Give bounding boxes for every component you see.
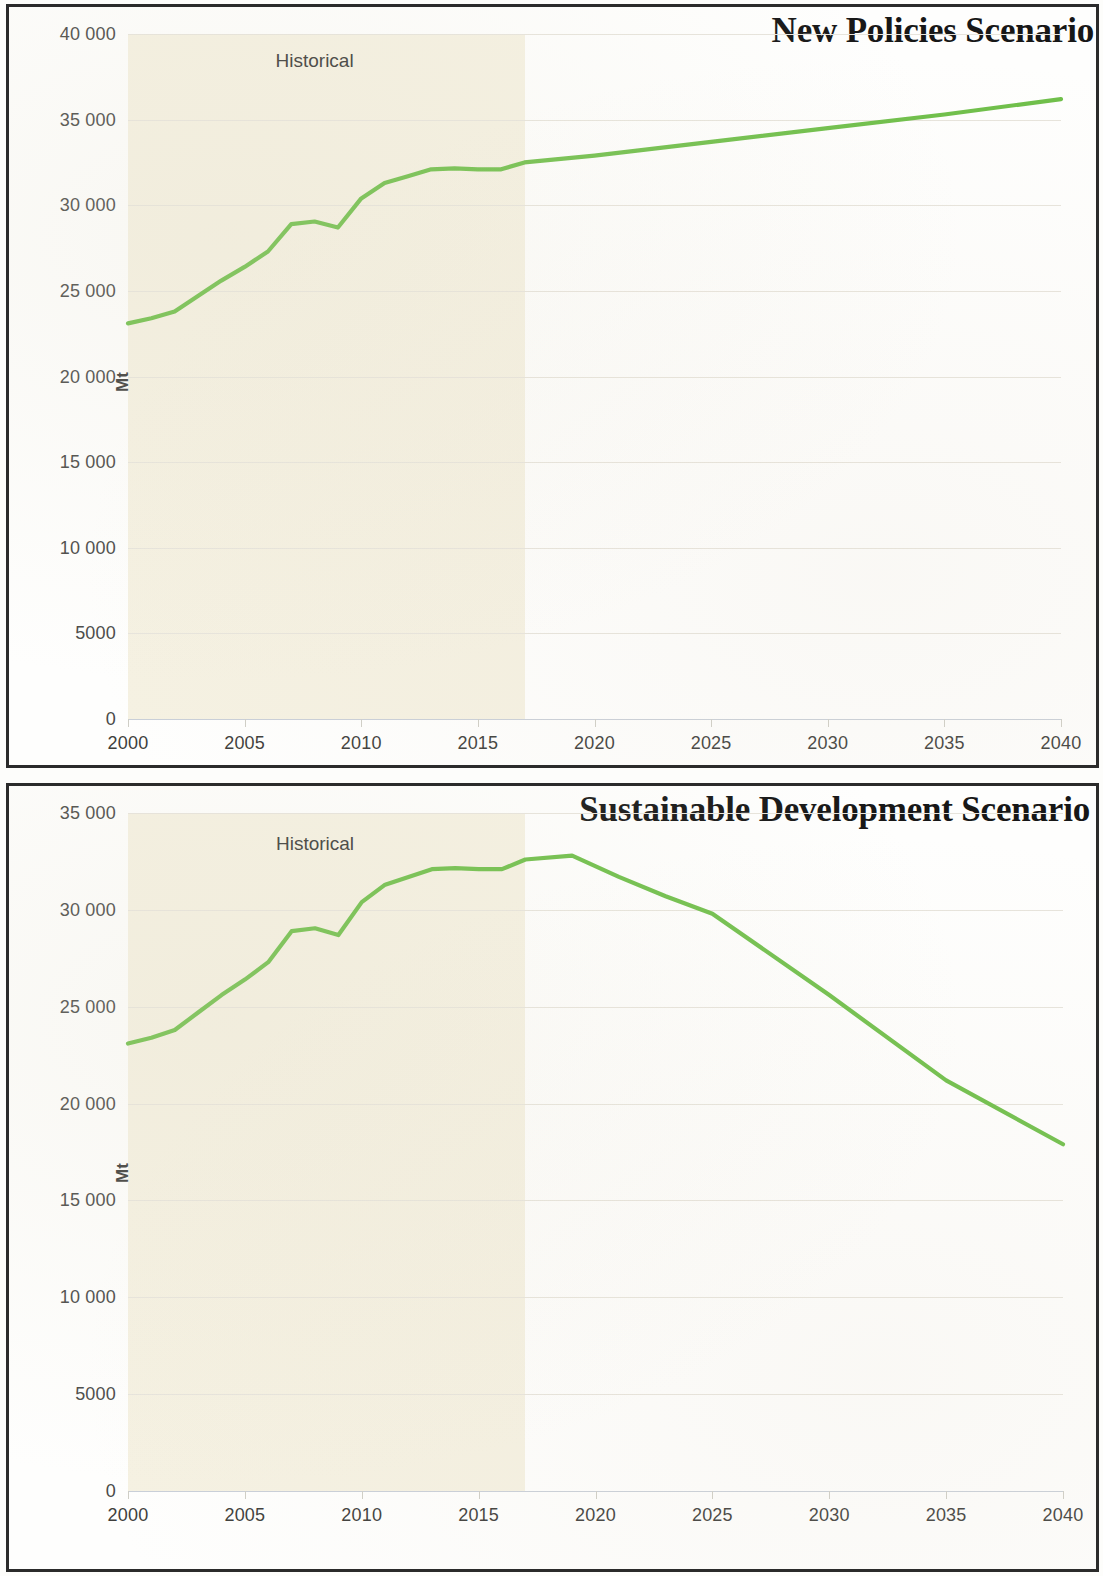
x-axis-tick-label: 2015 (458, 1505, 499, 1526)
y-axis-tick-label: 15 000 (60, 1190, 116, 1211)
x-axis-tick-label: 2025 (692, 1505, 733, 1526)
series-layer (128, 813, 1063, 1491)
y-axis-tick-label: 35 000 (60, 803, 116, 824)
y-axis-tick-label: 35 000 (60, 109, 116, 130)
x-axis-tick-label: 2000 (108, 733, 149, 754)
figure-page: New Policies Scenario 0500010 00015 0002… (0, 0, 1103, 1576)
x-axis-tick-mark (245, 719, 246, 727)
x-axis-tick-mark (1063, 1491, 1064, 1499)
y-axis-tick-label: 25 000 (60, 280, 116, 301)
x-axis-tick-mark (1061, 719, 1062, 727)
x-axis-tick-label: 2020 (574, 733, 615, 754)
x-axis-tick-label: 2030 (807, 733, 848, 754)
y-axis-tick-label: 0 (106, 1481, 116, 1502)
x-axis-tick-mark (478, 719, 479, 727)
x-axis-tick-label: 2010 (341, 733, 382, 754)
x-axis-tick-mark (128, 1491, 129, 1499)
x-axis-tick-mark (479, 1491, 480, 1499)
x-axis-tick-mark (362, 1491, 363, 1499)
x-axis-tick-mark (361, 719, 362, 727)
x-axis-tick-label: 2020 (575, 1505, 616, 1526)
x-axis-tick-mark (596, 1491, 597, 1499)
x-axis-tick-mark (828, 719, 829, 727)
y-axis-tick-label: 30 000 (60, 899, 116, 920)
x-axis-tick-label: 2025 (691, 733, 732, 754)
x-axis-tick-mark (712, 1491, 713, 1499)
x-axis-tick-label: 2040 (1041, 733, 1082, 754)
plot-area-sustainable-development: 0500010 00015 00020 00025 00030 00035 00… (128, 813, 1063, 1491)
x-axis-tick-label: 2030 (809, 1505, 850, 1526)
x-axis-tick-label: 2010 (341, 1505, 382, 1526)
x-axis-tick-label: 2035 (926, 1505, 967, 1526)
x-axis-tick-mark (128, 719, 129, 727)
x-axis-tick-mark (944, 719, 945, 727)
x-axis-tick-label: 2035 (924, 733, 965, 754)
y-axis-tick-label: 0 (106, 709, 116, 730)
x-axis-tick-mark (946, 1491, 947, 1499)
y-axis-tick-label: 20 000 (60, 1093, 116, 1114)
x-axis-tick-label: 2040 (1043, 1505, 1084, 1526)
x-axis-tick-label: 2000 (108, 1505, 149, 1526)
x-axis-tick-label: 2015 (457, 733, 498, 754)
y-axis-tick-label: 10 000 (60, 537, 116, 558)
chart-new-policies-scenario: New Policies Scenario 0500010 00015 0002… (6, 4, 1099, 768)
y-axis-tick-label: 30 000 (60, 195, 116, 216)
series-layer (128, 34, 1061, 719)
chart-sustainable-development-scenario: Sustainable Development Scenario 0500010… (6, 783, 1099, 1572)
data-series-line (128, 99, 1061, 323)
x-axis-tick-label: 2005 (224, 733, 265, 754)
x-axis-tick-mark (595, 719, 596, 727)
y-axis-tick-label: 25 000 (60, 996, 116, 1017)
data-series-line (128, 856, 1063, 1145)
y-axis-tick-label: 5000 (75, 1384, 116, 1405)
y-axis-tick-label: 10 000 (60, 1287, 116, 1308)
y-axis-tick-label: 5000 (75, 623, 116, 644)
x-axis-tick-mark (245, 1491, 246, 1499)
y-axis-tick-label: 20 000 (60, 366, 116, 387)
plot-area-new-policies: 0500010 00015 00020 00025 00030 00035 00… (128, 34, 1061, 719)
x-axis-tick-mark (711, 719, 712, 727)
y-axis-tick-label: 15 000 (60, 452, 116, 473)
x-axis-tick-label: 2005 (224, 1505, 265, 1526)
x-axis-tick-mark (829, 1491, 830, 1499)
y-axis-tick-label: 40 000 (60, 24, 116, 45)
